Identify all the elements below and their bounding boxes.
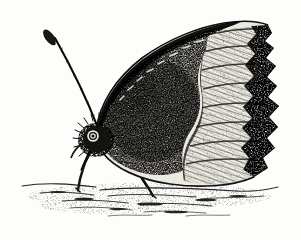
illustration-canvas: Mourning Cloak butterfly (underside, win…: [0, 0, 301, 240]
butterfly-engraving-svg: [0, 0, 301, 240]
eye: [86, 129, 99, 142]
